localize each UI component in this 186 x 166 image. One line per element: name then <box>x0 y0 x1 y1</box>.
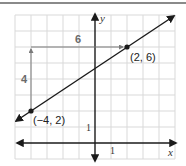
y-tick-label: 1 <box>86 122 91 133</box>
y-axis-label: y <box>100 12 105 24</box>
x-axis-label: x <box>168 146 173 158</box>
point-b-label: (2, 6) <box>130 51 156 63</box>
x-tick-label: 1 <box>110 145 115 156</box>
point-a-label: (−4, 2) <box>33 114 65 126</box>
run-label: 6 <box>75 33 81 45</box>
rise-label: 4 <box>21 73 27 85</box>
